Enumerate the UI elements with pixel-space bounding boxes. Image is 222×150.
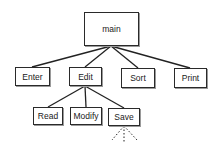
edge-edit-read [48, 86, 85, 107]
node-edit-label: Edit [78, 72, 93, 82]
node-print-label: Print [182, 73, 199, 83]
node-read-label: Read [38, 111, 58, 121]
node-sort-label: Sort [130, 73, 146, 83]
edge-main-enter [32, 46, 111, 67]
node-save-label: Save [114, 112, 133, 122]
node-enter-label: Enter [22, 72, 42, 82]
node-edit: Edit [69, 67, 102, 86]
node-print: Print [174, 68, 207, 88]
node-read: Read [33, 107, 63, 125]
node-main-label: main [102, 24, 120, 34]
node-main: main [84, 12, 139, 46]
edge-main-print [111, 46, 190, 68]
edge-edit-save [85, 86, 124, 108]
save-continuation-lines [112, 126, 137, 142]
node-sort: Sort [121, 68, 155, 88]
edge-edit-modify [85, 86, 86, 107]
node-enter: Enter [15, 67, 50, 86]
node-modify: Modify [70, 107, 102, 125]
node-modify-label: Modify [73, 111, 98, 121]
node-save: Save [108, 108, 140, 126]
